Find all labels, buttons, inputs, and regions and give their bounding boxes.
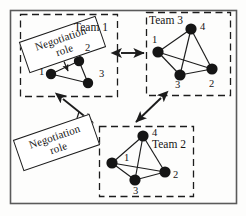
node-team2-4 [137, 130, 148, 141]
node-label-team2-4: 4 [152, 128, 157, 139]
edge-team2-1-2 [112, 163, 165, 172]
edge-team1-1-3 [51, 74, 88, 83]
node-label-team3-3: 3 [175, 80, 180, 91]
node-team2-1 [106, 157, 117, 168]
node-label-team2-1: 1 [124, 153, 129, 164]
node-label-team1-3: 3 [99, 69, 104, 80]
node-label-team2-3: 3 [133, 186, 138, 197]
node-label-team3-2: 2 [209, 79, 214, 90]
team-label-team2: Team 2 [152, 139, 186, 151]
node-team3-1 [152, 46, 163, 57]
node-label-team3-4: 4 [200, 22, 205, 33]
team-label-team3: Team 3 [149, 15, 183, 27]
node-team1-3 [83, 78, 93, 88]
figure-canvas: Negotiation role Negotiation role 123Tea… [0, 0, 246, 216]
node-team3-2 [206, 63, 217, 74]
node-team2-3 [129, 174, 140, 185]
node-label-team1-2: 2 [85, 43, 90, 54]
node-team3-4 [185, 23, 196, 34]
node-label-team1-1: 1 [39, 67, 44, 78]
node-label-team2-2: 2 [173, 170, 178, 181]
team-label-team1: Team 1 [74, 22, 108, 34]
connector-team3-team2 [136, 98, 161, 122]
node-label-team3-1: 1 [152, 35, 157, 46]
diagram-svg [0, 0, 246, 216]
node-team2-2 [159, 166, 170, 177]
node-team1-1 [46, 69, 56, 79]
